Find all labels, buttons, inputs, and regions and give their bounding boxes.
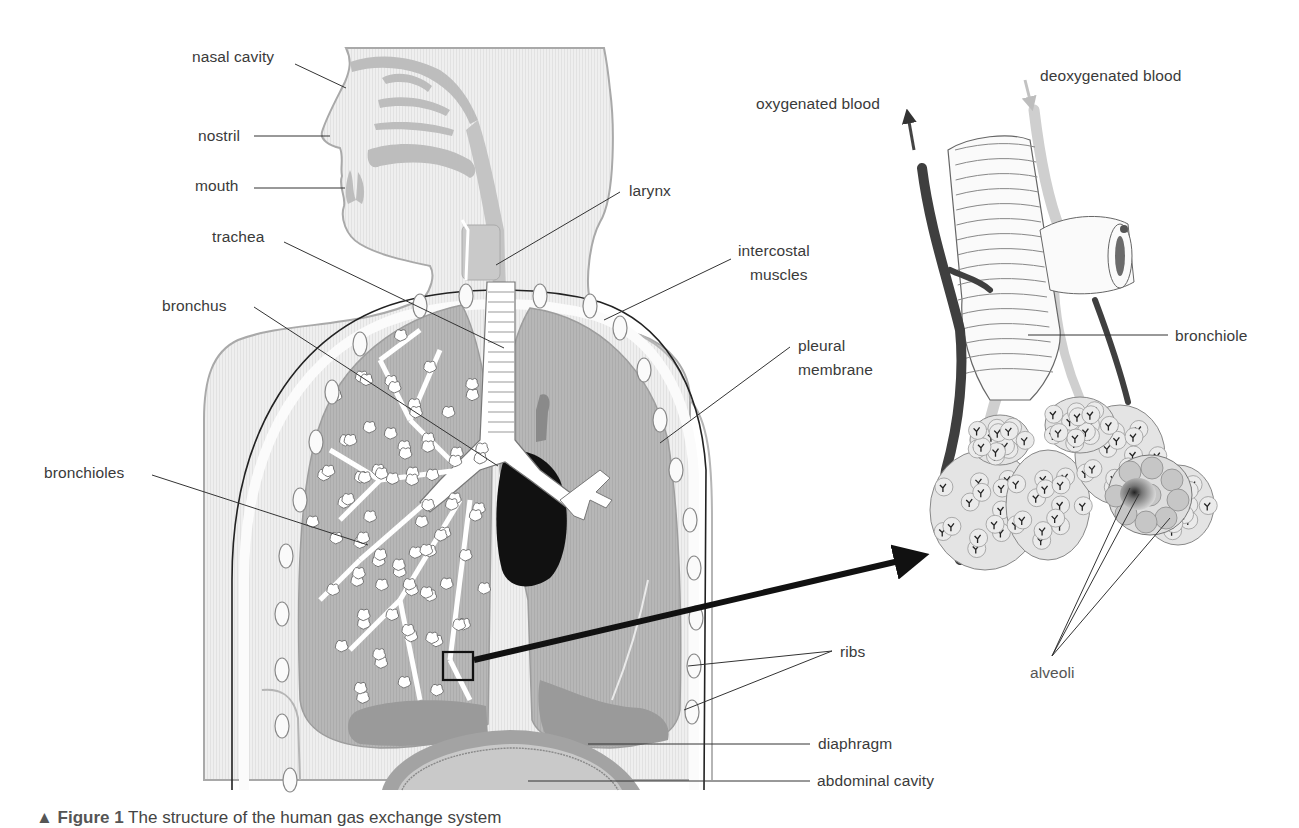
bronchiole-leaf (384, 428, 397, 440)
alveoli-detail (908, 80, 1217, 570)
rib-icon (533, 284, 547, 308)
deoxygenated-arrow (1025, 80, 1031, 104)
bronchiole-leaf (469, 510, 482, 522)
bronchiole-leaf (352, 568, 365, 580)
rib-icon (309, 430, 323, 454)
leader-intercostal (604, 259, 731, 320)
bronchiole-leaf (420, 544, 433, 556)
rib-icon (275, 602, 289, 626)
label-deoxygenated-blood: deoxygenated blood (1040, 67, 1181, 85)
bronchiole-leaf (402, 624, 415, 636)
bronchiole-leaf (373, 649, 386, 661)
label-larynx: larynx (629, 182, 671, 200)
bronchiole-leaf (420, 587, 433, 599)
bronchiole-leaf (363, 421, 376, 433)
bronchiole-leaf (406, 474, 419, 486)
bronchiole-leaf (449, 455, 462, 467)
rib-icon (637, 358, 651, 382)
bronchiole-leaf (434, 530, 447, 542)
bronchiole-leaf (335, 640, 348, 652)
bronchiole-leaf (422, 441, 435, 453)
leader-ribs-1 (688, 651, 832, 666)
bronchiole-leaf (466, 379, 479, 391)
bronchiole-leaf (398, 676, 411, 688)
bronchiole-leaf (357, 609, 370, 621)
bronchiole-leaf (399, 448, 412, 460)
bronchiole-leaf (424, 361, 437, 373)
label-pleural-2: membrane (798, 361, 873, 379)
bronchiole-leaf (394, 330, 407, 342)
label-nostril: nostril (198, 127, 240, 145)
label-intercostal-1: intercostal (738, 242, 810, 260)
bronchiole-leaf (344, 434, 357, 446)
bronchiole-leaf (375, 579, 388, 591)
bronchiole-leaf (445, 499, 458, 511)
rib-icon (685, 700, 699, 724)
figure-caption: ▲ Figure 1 The structure of the human ga… (36, 808, 501, 828)
bronchiole-leaf (415, 516, 428, 528)
bronchiole-leaf (453, 619, 466, 631)
bronchiole-leaf (440, 578, 453, 590)
rib-icon (413, 294, 427, 318)
rib-icon (283, 768, 297, 792)
caption-text: The structure of the human gas exchange … (128, 808, 501, 827)
oxygenated-arrow (908, 116, 914, 150)
rib-icon (353, 332, 367, 356)
label-trachea: trachea (212, 228, 264, 246)
bronchiole-leaf (442, 406, 455, 418)
leader-nasal-cavity (295, 64, 346, 88)
bronchiole-leaf (375, 468, 388, 480)
bronchiole-leaf (478, 583, 491, 595)
bronchiole-leaf (426, 469, 439, 481)
rib-icon (293, 488, 307, 512)
label-nasal-cavity: nasal cavity (192, 48, 274, 66)
label-bronchiole: bronchiole (1175, 327, 1248, 345)
bronchiole-leaf (426, 632, 439, 644)
rib-icon (459, 284, 473, 308)
alveolus-cell (1135, 511, 1157, 533)
rib-icon (275, 658, 289, 682)
rib-icon (275, 714, 289, 738)
bronchiole-leaf (330, 532, 343, 544)
label-mouth: mouth (195, 177, 239, 195)
label-oxygenated-blood: oxygenated blood (756, 95, 880, 113)
bronchiole-leaf (354, 682, 367, 694)
bronchiole-leaf (466, 389, 479, 401)
alveolus-cell (1141, 457, 1163, 479)
bronchiole-leaf (386, 609, 399, 621)
label-bronchus: bronchus (162, 297, 227, 315)
bronchiole-leaf (322, 465, 335, 477)
bronchiole-leaf (403, 579, 416, 591)
bronchiole-leaf (388, 382, 401, 394)
label-diaphragm: diaphragm (818, 735, 892, 753)
rib-icon (279, 544, 293, 568)
alveolus-cell (1161, 469, 1183, 491)
alveolus-cell (1155, 507, 1177, 529)
rib-icon (687, 556, 701, 580)
label-ribs: ribs (840, 643, 865, 661)
label-alveoli: alveoli (1030, 664, 1075, 682)
bronchiole-leaf (358, 472, 371, 484)
rib-icon (683, 508, 697, 532)
label-pleural-1: pleural (798, 337, 845, 355)
bronchiole-leaf (392, 559, 405, 571)
label-intercostal-2: muscles (750, 266, 808, 284)
bronchiole-leaf (342, 494, 355, 506)
bronchiole-leaf (327, 584, 340, 596)
caption-prefix: ▲ Figure 1 (36, 808, 124, 827)
bronchiole-leaf (430, 684, 443, 696)
rib-icon (325, 380, 339, 404)
bronchiole-leaf (374, 549, 387, 561)
bronchiole-leaf (422, 499, 435, 511)
label-bronchioles: bronchioles (44, 464, 124, 482)
label-abdominal-cavity: abdominal cavity (817, 772, 934, 790)
leader-ribs-2 (684, 651, 832, 710)
rib-icon (653, 408, 667, 432)
rib-icon (613, 316, 627, 340)
rib-icon (669, 458, 683, 482)
bronchiole-leaf (459, 550, 472, 562)
rib-icon (583, 294, 597, 318)
bronchiole-leaf (364, 511, 377, 523)
